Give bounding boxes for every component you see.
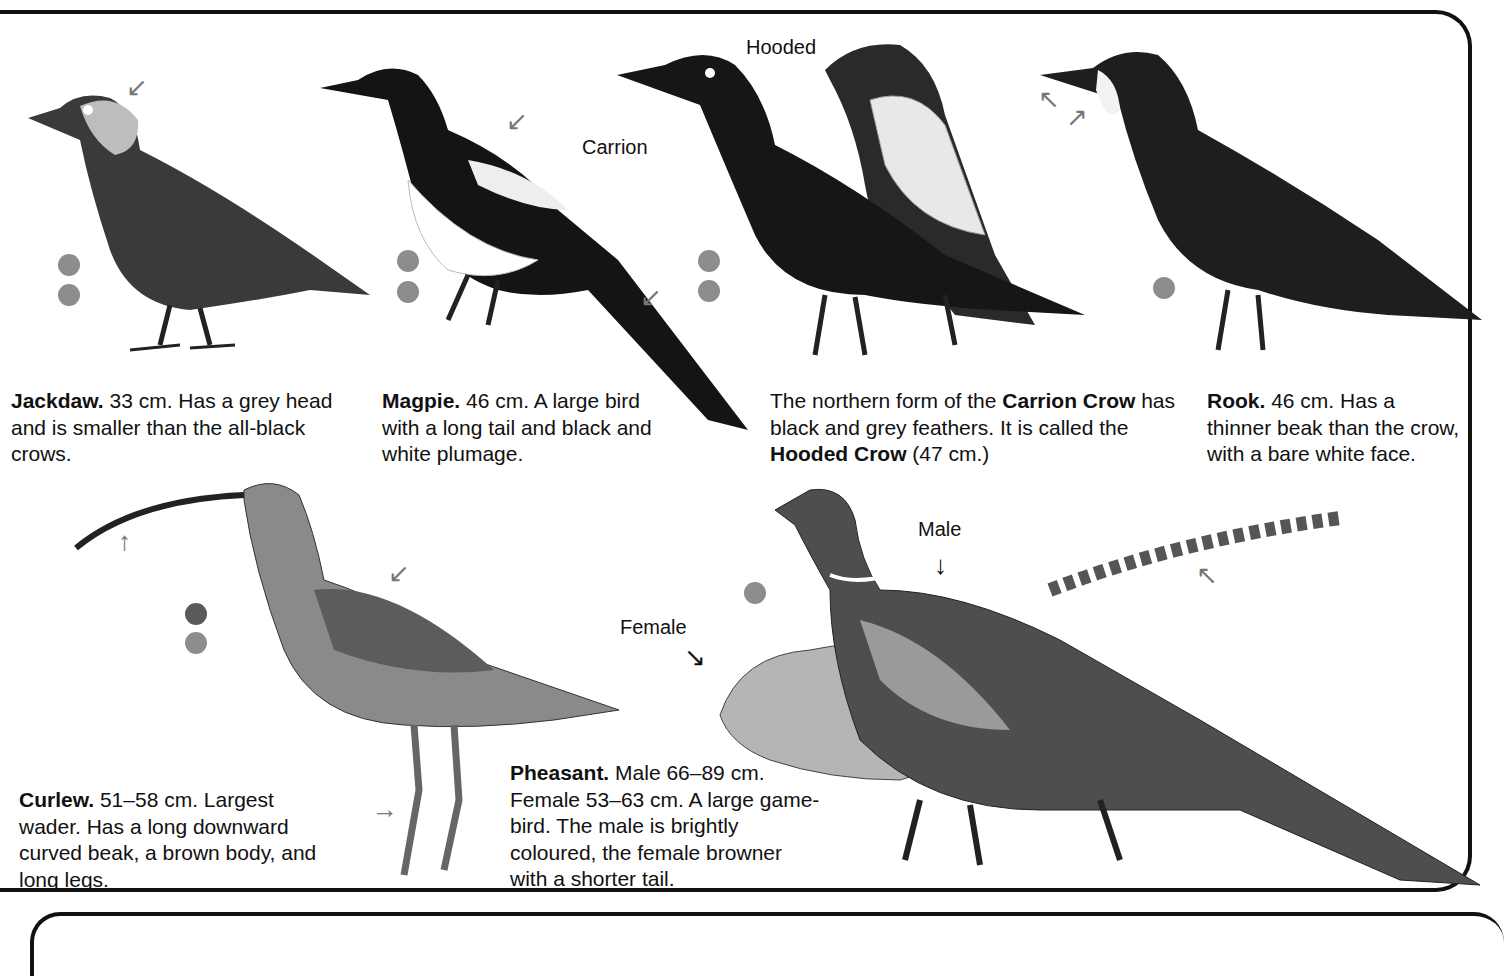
carrion-label: Carrion bbox=[582, 136, 648, 159]
curlew-dot-2 bbox=[185, 632, 207, 654]
crow-dot-1 bbox=[698, 250, 720, 272]
magpie-caption: Magpie. 46 cm. A large bird with a long … bbox=[382, 388, 652, 468]
jackdaw-dot-2 bbox=[58, 284, 80, 306]
pheasant-dot bbox=[744, 582, 766, 604]
curlew-caption: Curlew. 51–58 cm. Largest wader. Has a l… bbox=[19, 787, 329, 893]
rook-illustration bbox=[1038, 40, 1484, 380]
crow-description-start: The northern form of the bbox=[770, 389, 1002, 412]
jackdaw-name: Jackdaw. bbox=[11, 389, 104, 412]
jackdaw-caption: Jackdaw. 33 cm. Has a grey head and is s… bbox=[11, 388, 341, 468]
hooded-label: Hooded bbox=[746, 36, 816, 59]
curlew-beak-arrow-icon: ↑ bbox=[118, 528, 131, 554]
female-arrow-icon: ↘ bbox=[684, 644, 706, 670]
female-label: Female bbox=[620, 616, 687, 639]
magpie-name: Magpie. bbox=[382, 389, 460, 412]
curlew-dot-1 bbox=[185, 603, 207, 625]
rook-name: Rook. bbox=[1207, 389, 1265, 412]
bottom-panel-frame bbox=[30, 912, 1504, 976]
hooded-crow-size: (47 cm.) bbox=[907, 442, 990, 465]
rook-face-arrow-icon: ↗ bbox=[1066, 104, 1088, 130]
magpie-dot-2 bbox=[397, 281, 419, 303]
male-arrow-icon: ↓ bbox=[934, 552, 947, 578]
curlew-legs-arrow-icon: → bbox=[372, 796, 398, 822]
male-label: Male bbox=[918, 518, 961, 541]
crow-caption: The northern form of the Carrion Crow ha… bbox=[770, 388, 1190, 468]
crow-dot-2 bbox=[698, 280, 720, 302]
pheasant-name: Pheasant. bbox=[510, 761, 609, 784]
curlew-name: Curlew. bbox=[19, 788, 94, 811]
magpie-wing-arrow-icon: ↙ bbox=[506, 108, 528, 134]
jackdaw-dot-1 bbox=[58, 254, 80, 276]
magpie-dot-1 bbox=[397, 250, 419, 272]
pheasant-tail-arrow-icon: ↖ bbox=[1196, 562, 1218, 588]
rook-beak-arrow-icon: ↖ bbox=[1038, 86, 1060, 112]
rook-caption: Rook. 46 cm. Has a thinner beak than the… bbox=[1207, 388, 1462, 468]
curlew-body-arrow-icon: ↙ bbox=[388, 560, 410, 586]
rook-dot bbox=[1153, 277, 1175, 299]
hooded-crow-name: Hooded Crow bbox=[770, 442, 907, 465]
pheasant-caption: Pheasant. Male 66–89 cm. Female 53–63 cm… bbox=[510, 760, 820, 893]
jackdaw-grey-head-arrow-icon: ↙ bbox=[126, 74, 148, 100]
carrion-crow-name: Carrion Crow bbox=[1002, 389, 1135, 412]
